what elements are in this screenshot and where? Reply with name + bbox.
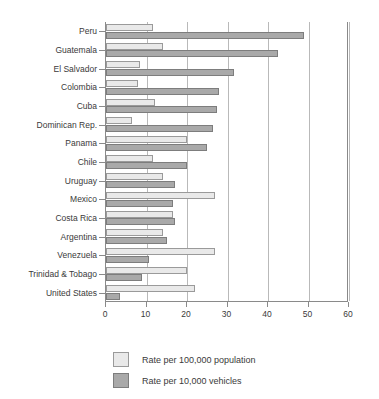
y-axis-tick-label: Uruguay bbox=[0, 176, 97, 186]
bar bbox=[106, 32, 304, 39]
y-axis-tick-label: El Salvador bbox=[0, 64, 97, 74]
bar bbox=[106, 293, 120, 300]
x-axis-tick bbox=[227, 302, 228, 307]
x-axis-tick-label: 40 bbox=[252, 309, 282, 319]
legend-item: Rate per 10,000 vehicles bbox=[113, 370, 353, 391]
x-axis-tick-label: 20 bbox=[171, 309, 201, 319]
bar-row bbox=[106, 134, 347, 153]
y-axis-tick-label: Argentina bbox=[0, 232, 97, 242]
y-axis-tick-label: Costa Rica bbox=[0, 213, 97, 223]
y-axis-tick-label: Guatemala bbox=[0, 45, 97, 55]
plot-area bbox=[105, 22, 348, 302]
bar bbox=[106, 61, 140, 68]
bar bbox=[106, 155, 153, 162]
y-axis-tick-label: Venezuela bbox=[0, 250, 97, 260]
bar bbox=[106, 192, 215, 199]
bar bbox=[106, 173, 163, 180]
bar bbox=[106, 229, 163, 236]
bar bbox=[106, 248, 215, 255]
bar bbox=[106, 200, 173, 207]
bar bbox=[106, 285, 195, 292]
y-axis-tick-label: Dominican Rep. bbox=[0, 120, 97, 130]
x-axis-tick bbox=[186, 302, 187, 307]
bar-row bbox=[106, 22, 347, 41]
bar-row bbox=[106, 265, 347, 284]
x-axis-tick-label: 30 bbox=[212, 309, 242, 319]
legend-item-label: Rate per 10,000 vehicles bbox=[142, 376, 242, 386]
bar bbox=[106, 117, 132, 124]
chart-legend: Rate per 100,000 population Rate per 10,… bbox=[113, 349, 353, 391]
bar bbox=[106, 125, 213, 132]
bar bbox=[106, 267, 187, 274]
x-axis-tick bbox=[146, 302, 147, 307]
x-axis-tick bbox=[348, 302, 349, 307]
legend-swatch-icon bbox=[113, 373, 129, 388]
bar bbox=[106, 237, 167, 244]
chart-figure: PeruGuatemalaEl SalvadorColombiaCubaDomi… bbox=[0, 0, 379, 399]
bar-row bbox=[106, 115, 347, 134]
bar-row bbox=[106, 227, 347, 246]
bar bbox=[106, 69, 234, 76]
y-axis-tick-label: Trinidad & Tobago bbox=[0, 269, 97, 279]
y-axis-tick-label: Peru bbox=[0, 26, 97, 36]
x-axis-tick bbox=[267, 302, 268, 307]
x-axis-tick-label: 50 bbox=[293, 309, 323, 319]
x-axis-tick-label: 0 bbox=[90, 309, 120, 319]
bar-row bbox=[106, 190, 347, 209]
bar bbox=[106, 99, 155, 106]
y-axis-tick-label: Chile bbox=[0, 157, 97, 167]
legend-swatch-icon bbox=[113, 352, 129, 367]
bar-row bbox=[106, 59, 347, 78]
bar-row bbox=[106, 41, 347, 60]
y-axis-tick-label: Colombia bbox=[0, 82, 97, 92]
bar bbox=[106, 136, 187, 143]
bar-row bbox=[106, 97, 347, 116]
x-axis-tick bbox=[308, 302, 309, 307]
x-axis-tick-label: 60 bbox=[333, 309, 363, 319]
y-axis-tick-label: United States bbox=[0, 288, 97, 298]
bar bbox=[106, 144, 207, 151]
bar bbox=[106, 43, 163, 50]
bar bbox=[106, 274, 142, 281]
x-axis-tick bbox=[105, 302, 106, 307]
legend-item-label: Rate per 100,000 population bbox=[142, 355, 256, 365]
bar-row bbox=[106, 153, 347, 172]
bar-row bbox=[106, 246, 347, 265]
bar bbox=[106, 50, 278, 57]
bar bbox=[106, 181, 175, 188]
bar bbox=[106, 211, 173, 218]
bar bbox=[106, 106, 217, 113]
bar bbox=[106, 80, 138, 87]
bar-row bbox=[106, 78, 347, 97]
y-axis-tick-label: Panama bbox=[0, 138, 97, 148]
y-axis-tick-label: Cuba bbox=[0, 101, 97, 111]
bar bbox=[106, 88, 219, 95]
legend-item: Rate per 100,000 population bbox=[113, 349, 353, 370]
bar bbox=[106, 256, 149, 263]
bar-row bbox=[106, 283, 347, 302]
bar-row bbox=[106, 171, 347, 190]
bar bbox=[106, 218, 175, 225]
gridline bbox=[349, 22, 350, 301]
y-axis-tick-label: Mexico bbox=[0, 194, 97, 204]
bar bbox=[106, 24, 153, 31]
x-axis-tick-label: 10 bbox=[131, 309, 161, 319]
bar bbox=[106, 162, 187, 169]
bar-row bbox=[106, 209, 347, 228]
